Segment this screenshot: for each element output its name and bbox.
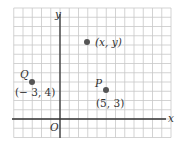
point-general-coords: (x, y) bbox=[95, 36, 122, 48]
point-p-coords: (5, 3) bbox=[96, 97, 124, 109]
origin-label: O bbox=[50, 121, 59, 133]
point-p-dot bbox=[103, 87, 109, 93]
point-general-dot bbox=[84, 39, 90, 45]
coordinate-plane: x y O Q (− 3, 4) P (5, 3) (x, y) bbox=[0, 0, 181, 144]
grid bbox=[14, 8, 171, 138]
point-p-name: P bbox=[94, 77, 103, 89]
point-q-dot bbox=[29, 79, 35, 85]
x-axis-label: x bbox=[168, 112, 174, 124]
point-q-coords: (− 3, 4) bbox=[15, 86, 55, 98]
y-axis-label: y bbox=[54, 8, 62, 20]
point-q-name: Q bbox=[20, 68, 29, 81]
